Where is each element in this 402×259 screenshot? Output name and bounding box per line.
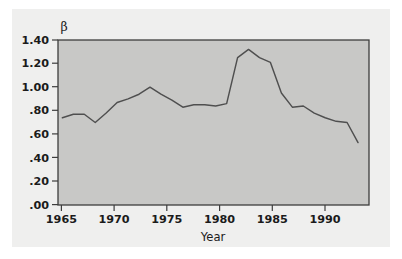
y-tick-label-0: .00 <box>29 199 49 212</box>
x-tick-label-1970: 1970 <box>99 213 130 226</box>
x-tick-label-1985: 1985 <box>257 213 288 226</box>
x-axis-title: Year <box>200 230 226 244</box>
y-tick-label-6: 1.20 <box>21 57 49 70</box>
y-tick-label-5: 1.00 <box>21 81 49 94</box>
x-tick-label-1975: 1975 <box>151 213 182 226</box>
chart-figure: .00 .20 .40 .60 .80 1.00 1.20 1.40 β 196… <box>0 0 402 259</box>
beta-over-time-line-chart: .00 .20 .40 .60 .80 1.00 1.20 1.40 β 196… <box>12 9 390 247</box>
y-tick-label-7: 1.40 <box>21 34 49 47</box>
y-tick-label-3: .60 <box>29 128 49 141</box>
y-tick-label-4: .80 <box>29 104 49 117</box>
y-axis-ticks <box>52 40 58 205</box>
chart-panel: .00 .20 .40 .60 .80 1.00 1.20 1.40 β 196… <box>12 9 390 247</box>
x-tick-label-1980: 1980 <box>204 213 235 226</box>
y-tick-label-1: .20 <box>29 175 49 188</box>
y-axis-title: β <box>60 19 67 34</box>
x-axis-ticks <box>61 205 325 211</box>
plot-area-background <box>58 40 369 205</box>
x-tick-label-1965: 1965 <box>46 213 77 226</box>
y-tick-label-2: .40 <box>29 152 49 165</box>
x-tick-label-1990: 1990 <box>309 213 340 226</box>
